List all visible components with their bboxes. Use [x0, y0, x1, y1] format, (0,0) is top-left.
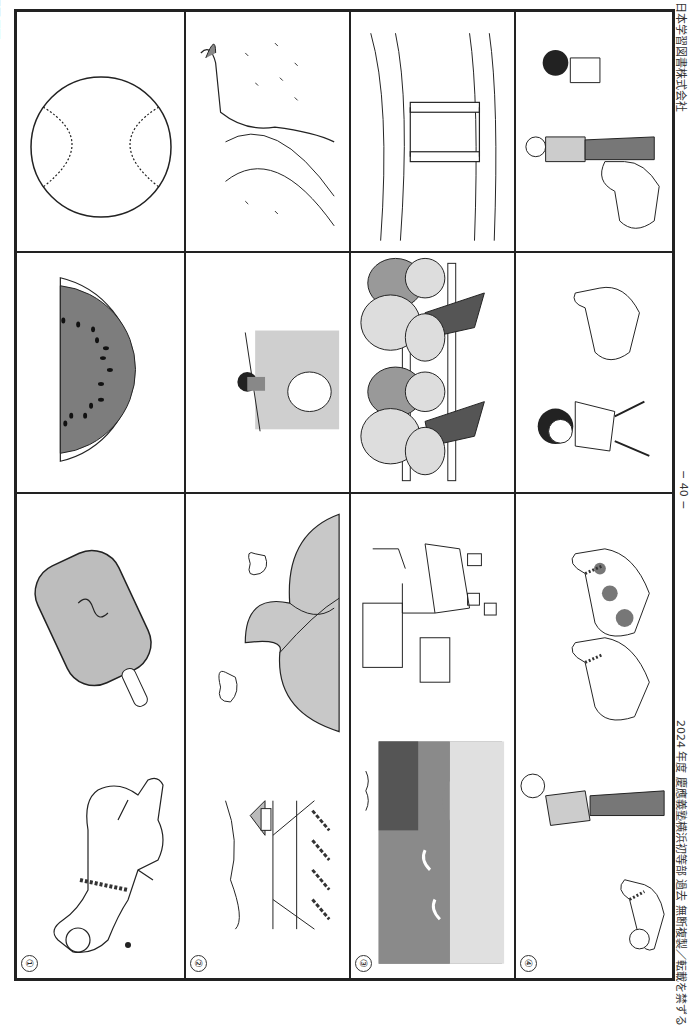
question-grid: ①	[14, 9, 675, 981]
row-number: ④	[520, 955, 537, 972]
choice-rice-field[interactable]: ②	[186, 740, 349, 978]
choice-room[interactable]	[351, 492, 514, 740]
choice-old-man-dog[interactable]: ④	[516, 740, 675, 978]
river-peach-illustration	[186, 253, 349, 492]
choice-mountains[interactable]	[186, 492, 349, 740]
row-number: ③	[355, 955, 372, 972]
choice-river-peach[interactable]	[186, 251, 349, 492]
choice-sea-rocks[interactable]: ③	[351, 740, 514, 978]
choice-popsicle[interactable]	[17, 492, 184, 740]
row-number: ①	[21, 955, 38, 972]
boy-dog-illustration	[516, 253, 675, 492]
question-row-2: ②	[184, 12, 349, 978]
trees-fence-illustration	[351, 253, 514, 492]
rice-field-illustration	[186, 740, 349, 978]
choice-river[interactable]	[186, 12, 349, 251]
choice-boy-old-man-dog[interactable]	[516, 12, 675, 251]
river-illustration	[186, 12, 349, 251]
choice-two-dogs[interactable]	[516, 492, 675, 740]
page-title: 問題16	[0, 0, 10, 36]
row-number: ②	[190, 955, 207, 972]
choice-boy-dog[interactable]	[516, 251, 675, 492]
choice-watermelon[interactable]	[17, 251, 184, 492]
choice-trees-fence[interactable]	[351, 251, 514, 492]
question-row-1: ①	[17, 12, 184, 978]
question-row-4: ④	[514, 12, 675, 978]
copyright-text: 2024 年度 慶應義塾横浜初等部 過去 無断複製／転載を禁ずる	[674, 720, 690, 1026]
two-dogs-illustration	[516, 494, 675, 740]
sea-rocks-illustration	[351, 740, 514, 978]
mountains-illustration	[186, 494, 349, 740]
watermelon-illustration	[17, 253, 184, 492]
boy-old-man-dog-illustration	[516, 12, 675, 251]
choice-baseball[interactable]	[17, 12, 184, 251]
page-title-text: 問題16	[0, 0, 8, 71]
publisher-text: 日本学習図書株式会社	[674, 2, 690, 112]
dog-illustration	[17, 740, 184, 978]
baseball-illustration	[17, 12, 184, 251]
old-man-dog-illustration	[516, 740, 675, 978]
popsicle-illustration	[17, 494, 184, 740]
bridge-illustration	[351, 12, 514, 251]
choice-dog[interactable]: ①	[17, 740, 184, 978]
page-number-text: − 40 −	[677, 470, 690, 509]
choice-bridge[interactable]	[351, 12, 514, 251]
room-illustration	[351, 494, 514, 740]
question-row-3: ③	[349, 12, 514, 978]
